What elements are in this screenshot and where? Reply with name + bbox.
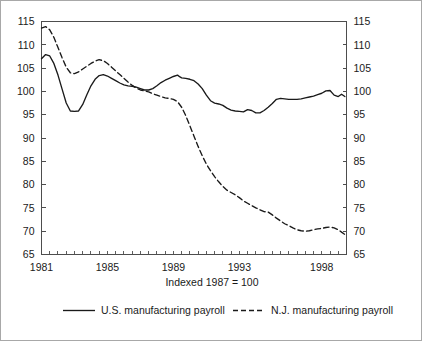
y-axis-left-label: 105 [17, 62, 35, 74]
y-axis-right-label: 100 [354, 85, 372, 97]
y-axis-left-label: 90 [23, 132, 35, 144]
legend-label-2: N.J. manufacturing payroll [271, 304, 393, 316]
chart-figure: 65707580859095100105110115 6570758085909… [0, 0, 422, 341]
data-series-group [42, 27, 345, 235]
y-axis-left-label: 65 [23, 248, 35, 260]
y-axis-left-ticks [42, 45, 46, 231]
y-axis-left-label: 95 [23, 108, 35, 120]
y-axis-left-label: 100 [17, 85, 35, 97]
y-axis-right-label: 95 [354, 108, 366, 120]
plot-frame [42, 22, 347, 255]
chart-caption: Indexed 1987 = 100 [165, 276, 258, 288]
y-axis-right-label: 110 [354, 39, 371, 51]
x-axis-label: 1989 [162, 261, 186, 273]
y-axis-left-label: 85 [23, 155, 35, 167]
x-axis-minor-ticks [42, 251, 347, 255]
y-axis-left-labels: 65707580859095100105110115 [17, 15, 35, 260]
x-axis-label: 1993 [228, 261, 252, 273]
series-us-manufacturing-payroll [42, 55, 345, 113]
y-axis-left-label: 115 [18, 15, 35, 27]
y-axis-right-labels: 65707580859095100105110115 [354, 15, 372, 260]
x-axis-labels: 19811985198919931998 [30, 261, 334, 273]
y-axis-right-ticks [343, 45, 347, 231]
chart-legend: U.S. manufacturing payrollN.J. manufactu… [63, 304, 393, 316]
x-axis-label: 1998 [310, 261, 334, 273]
series-nj-manufacturing-payroll [42, 27, 345, 235]
y-axis-left-label: 70 [23, 225, 35, 237]
y-axis-left-label: 75 [23, 202, 35, 214]
y-axis-left-label: 80 [23, 178, 35, 190]
y-axis-right-label: 90 [354, 132, 366, 144]
chart-canvas: 65707580859095100105110115 6570758085909… [1, 1, 422, 341]
y-axis-right-label: 115 [354, 15, 371, 27]
legend-label-1: U.S. manufacturing payroll [101, 304, 225, 316]
x-axis-label: 1985 [96, 261, 120, 273]
y-axis-right-label: 85 [354, 155, 366, 167]
plot-border [42, 22, 347, 255]
x-axis-label: 1981 [30, 261, 54, 273]
y-axis-right-label: 70 [354, 225, 366, 237]
y-axis-right-label: 105 [354, 62, 372, 74]
y-axis-right-label: 80 [354, 178, 366, 190]
y-axis-left-label: 110 [18, 39, 35, 51]
y-axis-right-label: 65 [354, 248, 366, 260]
y-axis-right-label: 75 [354, 202, 366, 214]
